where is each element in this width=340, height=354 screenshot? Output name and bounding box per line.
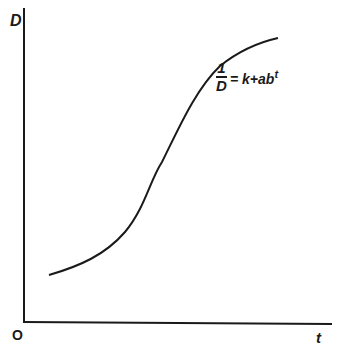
equation-rhs: = k+abt [230,68,278,87]
x-axis [23,322,332,324]
x-axis-label: t [316,329,321,346]
equation-numerator: 1 [217,61,225,75]
origin-label: O [12,327,23,343]
equation: 1 D = k+abt [216,61,278,93]
diagram-canvas [0,0,340,354]
equation-fraction: 1 D [216,61,227,93]
equation-exponent: t [274,68,278,80]
y-axis-label: D [10,12,22,30]
equation-denominator: D [216,79,227,93]
equation-rhs-text: = k+ab [230,70,274,86]
